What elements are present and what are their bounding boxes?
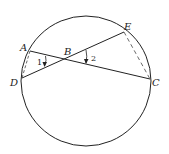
chord-ac [30,51,150,79]
geometry-diagram: 1 2 A B C D E [0,0,169,154]
chord-de [22,32,124,78]
point-b-label: B [63,46,71,57]
angle-1-label: 1 [37,58,42,67]
point-a-label: A [19,42,27,53]
circle [21,16,151,146]
angle-1-marker [43,56,48,67]
angle-2-marker [84,50,89,64]
angle-2-label: 2 [91,54,96,63]
point-c-label: C [152,77,160,88]
point-e-label: E [123,21,132,32]
point-d-label: D [9,77,18,88]
